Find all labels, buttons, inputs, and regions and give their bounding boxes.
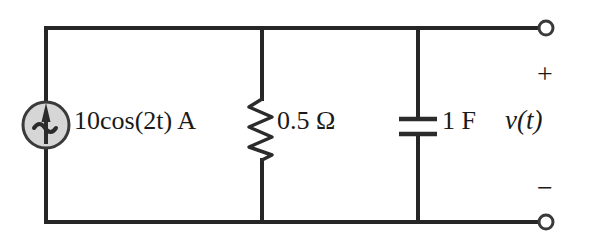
ac-current-source-icon: [23, 102, 69, 148]
resistor-label: 0.5 Ω: [277, 108, 335, 134]
capacitor-plates-icon: [399, 119, 437, 134]
output-voltage-label: v(t): [505, 107, 542, 134]
top-output-terminal: [539, 21, 553, 35]
resistor-zigzag-icon: [249, 99, 272, 160]
source-label: 10cos(2t) A: [74, 108, 196, 134]
bottom-output-terminal: [539, 215, 553, 229]
polarity-minus-label: −: [537, 174, 553, 202]
resistor-zigzag-path: [249, 99, 272, 160]
capacitor-label: 1 F: [442, 108, 476, 134]
polarity-plus-label: +: [537, 60, 553, 88]
circuit-diagram: 10cos(2t) A 0.5 Ω 1 F + v(t) −: [0, 0, 591, 251]
